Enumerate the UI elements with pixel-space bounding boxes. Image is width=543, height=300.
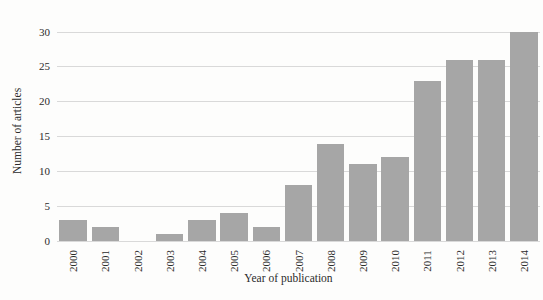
bar-2005 (220, 213, 248, 241)
bar-2001 (92, 227, 120, 241)
y-tick-label-10: 10 (17, 165, 50, 178)
y-tick-label-20: 20 (17, 95, 50, 108)
y-tick-label-25: 25 (17, 60, 50, 73)
bar-2000 (59, 220, 87, 241)
bar-2011 (414, 81, 442, 241)
bar-2007 (285, 185, 313, 241)
bar-2010 (381, 157, 409, 241)
bar-2013 (478, 60, 506, 241)
bar-2008 (317, 144, 345, 241)
bar-2009 (349, 164, 377, 241)
gridline-30 (57, 32, 540, 33)
y-tick-label-15: 15 (17, 130, 50, 143)
y-tick-label-0: 0 (17, 235, 50, 248)
bar-2004 (188, 220, 216, 241)
bar-2006 (253, 227, 281, 241)
bar-chart-figure: Number of articles 051015202530200020012… (0, 0, 543, 300)
bar-2012 (446, 60, 474, 241)
y-tick-label-30: 30 (17, 26, 50, 39)
y-tick-label-5: 5 (17, 200, 50, 213)
plot-area: 0510152025302000200120022003200420052006… (57, 14, 540, 241)
bar-2003 (156, 234, 184, 241)
bar-2014 (510, 32, 538, 241)
x-axis-title: Year of publication (47, 271, 530, 285)
